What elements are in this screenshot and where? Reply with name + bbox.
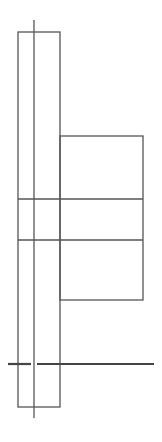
side-rect bbox=[60, 136, 143, 300]
tall-rect bbox=[18, 32, 60, 407]
structural-diagram bbox=[0, 0, 162, 442]
